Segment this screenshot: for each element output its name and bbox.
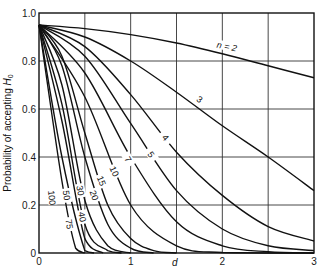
y-axis-label-subscript: 0 xyxy=(7,74,14,78)
curve-label: n = 2 xyxy=(216,40,238,54)
x-tick-label: 0 xyxy=(36,256,42,267)
x-tick-label: 2 xyxy=(220,256,226,267)
oc-curve-chart: n = 2345710152030405075100 0123 00.20.40… xyxy=(0,0,322,269)
y-tick-label: 0.8 xyxy=(22,56,36,67)
curve-label: 50 xyxy=(61,190,72,201)
y-tick-label: 0 xyxy=(30,248,36,259)
x-tick-label: 3 xyxy=(311,256,317,267)
curve-label: 75 xyxy=(64,219,75,230)
y-axis-ticks: 00.20.40.60.81.0 xyxy=(22,8,36,259)
curve-label: 30 xyxy=(74,185,86,197)
y-tick-label: 0.4 xyxy=(22,152,36,163)
y-tick-label: 0.2 xyxy=(22,200,36,211)
x-axis-label: d xyxy=(172,257,178,268)
y-axis-label-text: Probability of accepting xyxy=(2,85,13,191)
curve-label: 100 xyxy=(46,190,58,206)
y-axis-label: Probability of accepting H0 xyxy=(2,74,14,191)
y-tick-label: 1.0 xyxy=(22,8,36,19)
y-tick-label: 0.6 xyxy=(22,104,36,115)
curve-label: 40 xyxy=(76,211,88,223)
x-tick-label: 1 xyxy=(128,256,134,267)
